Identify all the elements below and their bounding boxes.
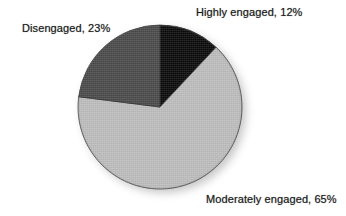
pie-chart-figure: Highly engaged, 12% Disengaged, 23% Mode…: [0, 0, 346, 216]
slice-label-moderately-engaged: Moderately engaged, 65%: [206, 193, 337, 206]
pie-slice-disengaged: [79, 25, 160, 107]
pie-slices: [78, 25, 242, 189]
pie-chart: [78, 25, 242, 189]
slice-label-highly-engaged: Highly engaged, 12%: [196, 6, 302, 19]
slice-label-disengaged: Disengaged, 23%: [22, 22, 110, 35]
